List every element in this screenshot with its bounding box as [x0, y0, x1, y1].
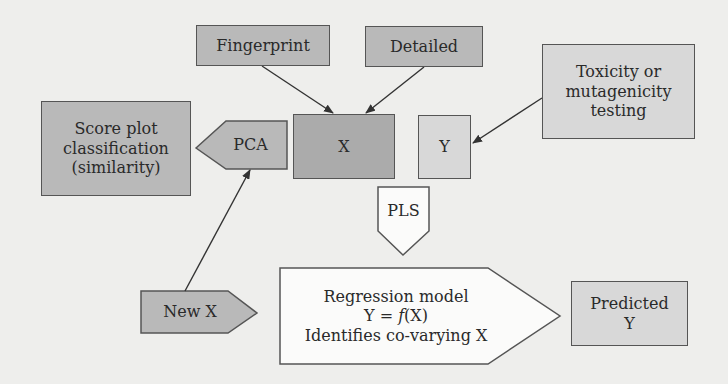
detailed-node: Detailed: [365, 26, 483, 67]
pca-label: PCA: [233, 135, 268, 155]
y-label: Y: [439, 137, 450, 157]
fingerprint-node: Fingerprint: [196, 25, 330, 66]
toxicity-line-1: Toxicity or: [576, 62, 661, 82]
toxicity-testing-node: Toxicity or mutagenicity testing: [542, 44, 695, 139]
score-plot-line-1: Score plot: [74, 119, 157, 139]
score-plot-line-2: classification: [63, 139, 169, 159]
y-matrix-node: Y: [418, 115, 471, 179]
pls-label: PLS: [387, 201, 419, 221]
arrow-toxicity-to-y: [473, 98, 542, 143]
predicted-y-line-2: Y: [624, 314, 635, 334]
fingerprint-label: Fingerprint: [216, 36, 310, 56]
predicted-y-line-1: Predicted: [590, 294, 668, 314]
new-x-label: New X: [163, 302, 217, 322]
predicted-y-node: Predicted Y: [571, 281, 688, 346]
score-plot-node: Score plot classification (similarity): [41, 101, 191, 196]
arrow-fingerprint-to-x: [262, 66, 333, 113]
score-plot-line-3: (similarity): [72, 158, 161, 178]
regression-model-node: Regression model Y = f(X) Identifies co-…: [280, 268, 512, 364]
toxicity-line-2: mutagenicity: [565, 82, 671, 102]
detailed-label: Detailed: [390, 37, 458, 57]
regression-line-1: Regression model: [323, 287, 468, 307]
regression-equation: Y = f(X): [364, 306, 428, 326]
pls-node: PLS: [378, 192, 429, 230]
new-x-node: New X: [141, 291, 239, 333]
arrow-detailed-to-x: [366, 67, 424, 113]
equation-arg: (X): [404, 306, 428, 325]
equation-lhs: Y =: [364, 306, 398, 325]
pca-node: PCA: [214, 121, 287, 169]
arrow-new-x-to-pca: [185, 170, 250, 291]
regression-line-3: Identifies co-varying X: [305, 326, 488, 346]
toxicity-line-3: testing: [590, 101, 646, 121]
x-matrix-node: X: [293, 114, 395, 179]
diagram-canvas: Fingerprint Detailed Toxicity or mutagen…: [0, 0, 728, 384]
x-label: X: [338, 137, 349, 157]
